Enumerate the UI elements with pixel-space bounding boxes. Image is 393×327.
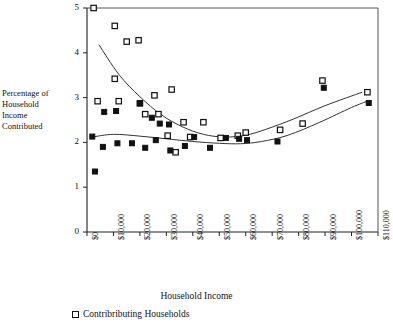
x-tick-label: $10,000: [117, 214, 126, 240]
x-tick-label: $40,000: [196, 214, 205, 240]
open-square-icon: [72, 311, 79, 318]
y-tick-label: 2: [65, 136, 79, 146]
chart-legend: Contribributing Households: [72, 309, 189, 319]
x-tick-label: $70,000: [276, 214, 285, 240]
x-tick-label: $0: [91, 232, 100, 240]
y-tick-label: 5: [65, 2, 79, 12]
x-tick-label: $100,000: [355, 210, 364, 240]
y-tick-label: 4: [65, 47, 79, 57]
x-axis-title: Household Income: [0, 291, 393, 301]
x-tick-label: $110,000: [382, 210, 391, 240]
chart-container: Percentage of Household Income Contribut…: [0, 0, 393, 327]
x-tick-label: $20,000: [143, 214, 152, 240]
legend-label-contributing: Contribributing Households: [83, 309, 189, 319]
x-tick-label: $60,000: [249, 214, 258, 240]
x-tick-label: $30,000: [170, 214, 179, 240]
x-tick-label: $80,000: [302, 214, 311, 240]
chart-plot-svg: [0, 0, 393, 327]
y-tick-label: 1: [65, 181, 79, 191]
y-tick-label: 0: [65, 226, 79, 236]
plot-frame: [87, 8, 378, 232]
y-tick-label: 3: [65, 92, 79, 102]
x-tick-label: $50,000: [223, 214, 232, 240]
fit-curves: [92, 45, 367, 144]
x-tick-label: $90,000: [329, 214, 338, 240]
